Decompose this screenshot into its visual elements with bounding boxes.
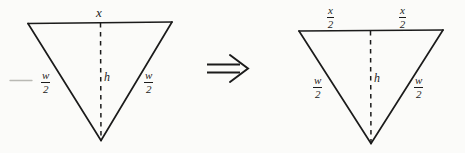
right-triangle-top-edge: [299, 30, 443, 31]
left-triangle-left-side-label: w 2: [41, 70, 50, 95]
figure-canvas: [0, 0, 465, 153]
right-triangle-left-side-denominator: 2: [313, 88, 322, 100]
left-triangle-right-side: [101, 22, 172, 141]
right-triangle-top-right-label: x 2: [399, 5, 406, 30]
right-triangle-height-label: h: [374, 72, 380, 84]
implies-arrow-icon: [207, 55, 248, 82]
right-triangle-altitude-dashed: [371, 31, 372, 144]
geometry-figure: x h w 2 w 2 x 2 x 2 h w 2 w 2: [0, 0, 465, 153]
left-triangle-height-label: h: [104, 71, 110, 83]
right-triangle-right-side: [371, 30, 443, 144]
right-triangle-top-left-denominator: 2: [327, 18, 334, 30]
right-triangle-right-side-label: w 2: [414, 75, 423, 100]
right-triangle-left-side: [299, 31, 371, 144]
right-triangle-left-side-label: w 2: [313, 75, 322, 100]
left-triangle-altitude-dashed: [101, 23, 102, 141]
right-triangle-right-side-denominator: 2: [414, 88, 423, 100]
right-triangle-top-left-numerator: x: [327, 5, 334, 18]
left-triangle-top-label: x: [96, 6, 102, 19]
left-triangle-left-side: [28, 24, 101, 141]
right-triangle-top-right-denominator: 2: [399, 18, 406, 30]
left-triangle-right-side-label: w 2: [144, 70, 153, 95]
right-triangle-right-side-numerator: w: [414, 75, 423, 88]
right-triangle-top-left-label: x 2: [327, 5, 334, 30]
left-triangle-left-side-denominator: 2: [41, 83, 50, 95]
right-triangle-left-side-numerator: w: [313, 75, 322, 88]
right-triangle-top-right-numerator: x: [399, 5, 406, 18]
left-triangle-right-side-denominator: 2: [144, 83, 153, 95]
left-triangle-right-side-numerator: w: [144, 70, 153, 83]
left-triangle-left-side-numerator: w: [41, 70, 50, 83]
